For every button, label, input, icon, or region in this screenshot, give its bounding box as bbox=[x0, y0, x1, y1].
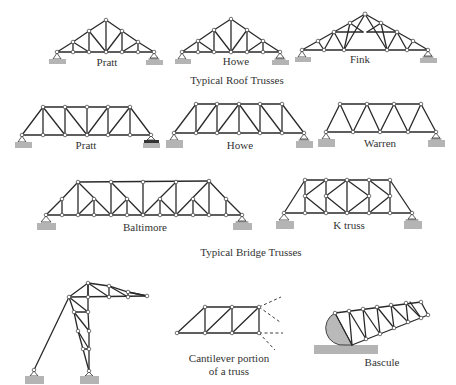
truss-label: Pratt bbox=[97, 56, 118, 68]
ground-icon bbox=[143, 143, 160, 148]
truss-label: K truss bbox=[333, 219, 364, 231]
roof-pratt-truss: Pratt bbox=[49, 18, 163, 68]
truss-label: Bascule bbox=[365, 356, 400, 368]
truss-label: Howe bbox=[227, 139, 253, 151]
roller-icon bbox=[144, 140, 159, 143]
pin-support-icon bbox=[85, 372, 93, 376]
roller-support-icon bbox=[150, 53, 158, 58]
ground-icon bbox=[318, 139, 335, 147]
roller-support-icon bbox=[408, 214, 416, 219]
ground-icon bbox=[420, 58, 437, 63]
bridge-howe-truss: Howe bbox=[166, 102, 313, 151]
truss-label: Howe bbox=[223, 55, 249, 67]
ground-icon bbox=[428, 140, 445, 147]
ground-icon bbox=[276, 221, 294, 229]
ground-icon bbox=[166, 140, 183, 148]
bridge-trusses-caption: Typical Bridge Trusses bbox=[200, 246, 301, 258]
roller-support-icon bbox=[276, 53, 284, 58]
ground-icon bbox=[15, 142, 32, 148]
ground-icon bbox=[404, 221, 422, 229]
roof-fink-truss: Fink bbox=[295, 12, 437, 65]
roller-support-icon bbox=[424, 51, 432, 56]
truss-label: Warren bbox=[364, 137, 397, 149]
bascule-truss: Bascule bbox=[314, 300, 430, 368]
pin-support-icon bbox=[18, 136, 26, 142]
pin-support-icon bbox=[178, 53, 186, 59]
roof-howe-truss: Howe bbox=[175, 17, 289, 67]
bridge-warren-truss: Warren bbox=[318, 102, 445, 149]
truss-label: Baltimore bbox=[123, 221, 167, 233]
pin-support-icon bbox=[41, 216, 51, 222]
ground-icon bbox=[296, 141, 313, 148]
counterweight-icon bbox=[326, 313, 352, 345]
bridge-k-truss: K truss bbox=[276, 178, 422, 231]
roof-trusses-caption: Typical Roof Trusses bbox=[190, 74, 283, 86]
roller-support-icon bbox=[432, 133, 440, 138]
ground-icon bbox=[25, 376, 44, 384]
pin-support-icon bbox=[170, 134, 178, 140]
bridge-baltimore-truss: Baltimore bbox=[37, 179, 252, 233]
ground-icon bbox=[233, 223, 252, 230]
ground-icon bbox=[49, 59, 66, 64]
ground-icon bbox=[37, 223, 56, 230]
pin-support-icon bbox=[30, 371, 38, 376]
crane-truss bbox=[25, 281, 149, 384]
ground-icon bbox=[272, 60, 289, 65]
pin-support-icon bbox=[53, 53, 61, 59]
truss-label-line2: of a truss bbox=[209, 365, 249, 377]
pin-support-icon bbox=[298, 51, 306, 57]
truss-diagram: Pratt Howe bbox=[0, 0, 456, 385]
truss-label: Fink bbox=[350, 53, 371, 65]
roller-support-icon bbox=[238, 216, 246, 221]
truss-label: Pratt bbox=[76, 139, 97, 151]
ground-icon bbox=[314, 345, 378, 354]
ground-icon bbox=[175, 59, 191, 64]
ground-icon bbox=[295, 57, 311, 62]
ground-icon bbox=[146, 60, 163, 65]
roller-support-icon bbox=[147, 136, 155, 140]
pin-support-icon bbox=[322, 133, 330, 139]
bridge-pratt-truss: Pratt bbox=[15, 105, 160, 151]
pin-support-icon bbox=[279, 214, 289, 220]
truss-label-line1: Cantilever portion bbox=[189, 352, 270, 364]
cantilever-truss: Cantilever portion of a truss bbox=[175, 297, 283, 377]
roller-support-icon bbox=[300, 134, 308, 139]
ground-icon bbox=[80, 376, 99, 384]
